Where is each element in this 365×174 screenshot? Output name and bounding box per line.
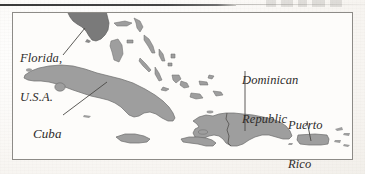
leader-line-florida	[63, 28, 85, 55]
bahamas-turks-caicos	[213, 91, 223, 96]
landmass-cayman-islands	[83, 115, 91, 118]
bahamas-new-providence	[127, 40, 133, 43]
map-label-puerto-rico-line2: Rico	[288, 158, 323, 171]
map-label-cuba: Cuba	[33, 100, 62, 168]
map-label-puerto-rico: Puerto Rico	[288, 93, 323, 174]
virgin-island-d	[343, 144, 350, 147]
map-label-puerto-rico-line1: Puerto	[288, 119, 323, 132]
bahamas-san-salvador	[171, 54, 175, 58]
bahamas-acklins	[180, 81, 189, 88]
bahamas-inagua	[190, 93, 203, 99]
bahamas-exuma-chain	[139, 58, 151, 72]
bahamas-eleuthera	[144, 35, 155, 53]
virgin-island-b	[343, 133, 350, 136]
bahamas-long-island	[155, 67, 162, 81]
bahamas-cat-island	[159, 49, 165, 61]
landmass-gonave-island	[198, 130, 207, 134]
virgin-island-a	[335, 127, 343, 131]
bahamas-mayaguana	[199, 81, 208, 85]
virgin-island-c	[334, 140, 341, 143]
bahamas-grand-bahama	[114, 21, 132, 26]
landmass-florida	[67, 13, 109, 41]
map-label-cuba-line1: Cuba	[33, 127, 62, 141]
top-horizontal-rule	[0, 4, 236, 6]
map-label-dominican-republic-line1: Dominican	[242, 74, 298, 87]
landmass-florida-keys	[85, 39, 91, 43]
landmass-haiti-southern-peninsula	[181, 137, 216, 146]
figure-page: Florida, U.S.A. Cuba Dominican Republic …	[0, 0, 365, 174]
bahamas-andros	[110, 39, 123, 62]
bahamas-rum-cay	[168, 63, 172, 66]
bahamas-small-cay-a	[161, 87, 169, 91]
map-label-florida-line1: Florida,	[20, 52, 62, 65]
landmass-tortuga-island	[207, 111, 214, 114]
landmass-jamaica	[116, 134, 150, 143]
bleed-through-ghost-text	[263, 0, 359, 7]
bahamas-crooked-island	[172, 75, 181, 83]
bahamas-small-cay-b	[208, 75, 214, 79]
bahamas-abaco	[134, 18, 143, 32]
